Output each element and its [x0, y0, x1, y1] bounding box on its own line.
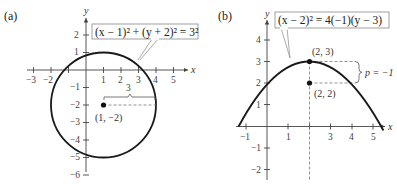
- x-tick-label: 3: [136, 75, 141, 85]
- y-tick-label: 1: [74, 47, 79, 57]
- x-axis-label: x: [387, 121, 393, 132]
- x-tick-label: 4: [153, 75, 158, 85]
- y-tick-label: 1: [256, 100, 261, 110]
- panel-b: (b) x y −1 1 3 4 5 4 3: [218, 8, 394, 180]
- callout-pointer: [138, 39, 158, 60]
- p-label: p = −1: [364, 67, 394, 78]
- center-point: [101, 102, 106, 107]
- parabola-curve: [239, 61, 384, 130]
- y-tick-label: 2: [74, 30, 79, 40]
- y-tick-label: −2: [70, 100, 80, 110]
- y-tick-label: 3: [256, 57, 261, 67]
- callout-pointer: [281, 28, 290, 58]
- panel-a-label: (a): [4, 9, 17, 23]
- x-tick-label: −1: [240, 132, 250, 142]
- focus-label: (2, 2): [314, 88, 336, 100]
- y-tick-label: −2: [251, 165, 261, 175]
- center-label: (1, −2): [95, 112, 122, 124]
- radius-brace: [104, 94, 155, 100]
- y-tick-label: −1: [251, 143, 261, 153]
- x-axis-label: x: [190, 64, 196, 75]
- y-tick-label: 4: [256, 35, 261, 45]
- y-axis-label: y: [83, 5, 89, 16]
- radius-label: 3: [126, 83, 131, 93]
- x-tick-label: 5: [171, 75, 176, 85]
- panel-a: (a) x y −3 −2 1 2 3 4 5: [4, 5, 199, 180]
- y-tick-label: 2: [256, 78, 261, 88]
- panel-b-label: (b): [218, 9, 232, 23]
- y-axis-label: y: [264, 8, 270, 19]
- x-tick-label: 3: [328, 132, 333, 142]
- x-tick-label: 1: [101, 75, 106, 85]
- vertex-label: (2, 3): [312, 46, 334, 58]
- equation-a: (x − 1)² + (y + 2)² = 3²: [95, 26, 199, 39]
- vertex-point: [307, 59, 312, 64]
- x-tick-label: 2: [118, 75, 123, 85]
- x-tick-label: −2: [43, 75, 53, 85]
- y-tick-label: −6: [70, 170, 80, 180]
- y-tick-label: −1: [70, 82, 80, 92]
- x-tick-label: 1: [286, 132, 291, 142]
- focus-point: [307, 80, 312, 85]
- y-tick-label: −5: [70, 152, 80, 162]
- y-tick-label: −3: [70, 117, 80, 127]
- y-tick-label: −4: [70, 135, 80, 145]
- x-tick-label: −3: [26, 75, 36, 85]
- x-tick-label: 4: [349, 132, 354, 142]
- equation-b: (x − 2)² = 4(−1)(y − 3): [278, 14, 382, 27]
- p-brace: [355, 62, 362, 84]
- x-tick-label: 5: [371, 132, 376, 142]
